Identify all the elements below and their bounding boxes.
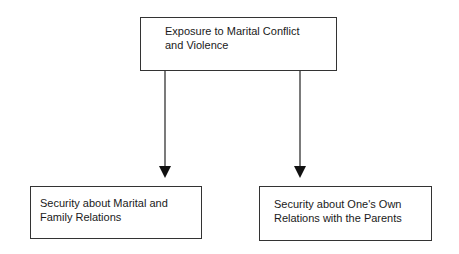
arrow-to-right-node	[294, 71, 306, 178]
node-security-parent-relations: Security about One's Own Relations with …	[259, 186, 432, 241]
arrow-to-left-node	[159, 71, 171, 178]
node-label-line: and Violence	[165, 38, 336, 52]
node-exposure-marital-conflict: Exposure to Marital Conflict and Violenc…	[140, 17, 337, 71]
node-security-marital-family: Security about Marital and Family Relati…	[30, 186, 202, 239]
node-label-line: Relations with the Parents	[274, 211, 431, 225]
node-label-line: Family Relations	[40, 210, 201, 224]
node-label-line: Exposure to Marital Conflict	[165, 24, 336, 38]
node-label-line: Security about Marital and	[40, 196, 201, 210]
node-label-line: Security about One's Own	[274, 197, 431, 211]
